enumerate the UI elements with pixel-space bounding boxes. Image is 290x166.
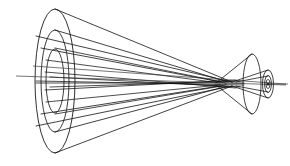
cone-lower-edge — [216, 85, 252, 114]
ray-inner-top — [55, 48, 222, 82]
ray-outer-bottom — [55, 86, 232, 153]
ray-outer-top — [55, 9, 232, 82]
ray-outer-upper-left — [36, 36, 232, 82]
cone-upper-edge — [216, 54, 252, 83]
inner-ray-group — [46, 48, 222, 114]
optics-figure: Converging wavefront cone diagram Geomet… — [0, 0, 290, 166]
ray-middle-top — [55, 30, 228, 82]
ray-outer-lower-left — [36, 86, 232, 126]
wavefront-cone-diagram — [0, 0, 290, 166]
